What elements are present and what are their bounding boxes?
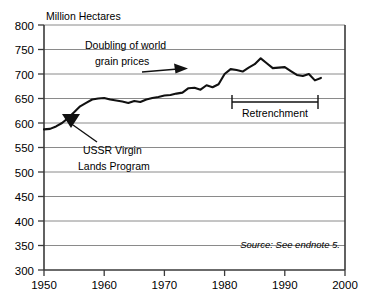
x-tick-label-1950: 1950: [31, 279, 57, 291]
y-tick-label-350: 350: [15, 240, 34, 252]
y-tick-label-500: 500: [15, 167, 34, 179]
grainland-area-line-chart: Million Hectares: [0, 0, 375, 307]
chart-figure: Million Hectares: [0, 0, 375, 307]
y-tick-label-400: 400: [15, 216, 34, 228]
y-tick-label-800: 800: [15, 20, 34, 32]
y-tick-label-750: 750: [15, 44, 34, 56]
annotation-ussr-line1: USSR Virgin: [83, 144, 142, 156]
y-tick-label-300: 300: [15, 265, 34, 277]
annotation-grain-prices-line1: Doubling of world: [85, 39, 166, 51]
x-tick-label-1980: 1980: [212, 279, 238, 291]
source-note: Source: See endnote 5.: [240, 239, 340, 250]
x-tick-label-1970: 1970: [152, 279, 178, 291]
x-tick-label-1960: 1960: [91, 279, 117, 291]
y-tick-label-600: 600: [15, 118, 34, 130]
y-tick-label-450: 450: [15, 191, 34, 203]
y-axis-title: Million Hectares: [46, 10, 121, 22]
retrenchment-label: Retrenchment: [242, 107, 308, 119]
y-tick-label-550: 550: [15, 142, 34, 154]
annotation-grain-prices-line2: grain prices: [95, 55, 149, 67]
chart-background: [0, 0, 375, 307]
x-tick-label-2000: 2000: [332, 279, 358, 291]
annotation-ussr-line2: Lands Program: [78, 160, 150, 172]
y-tick-label-650: 650: [15, 93, 34, 105]
y-tick-label-700: 700: [15, 69, 34, 81]
x-tick-label-1990: 1990: [272, 279, 298, 291]
